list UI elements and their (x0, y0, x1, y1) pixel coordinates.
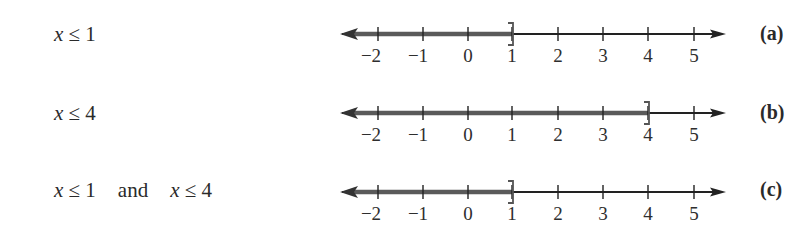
variable-x: x (170, 178, 179, 202)
svg-text:4: 4 (643, 124, 653, 145)
number-line-c: −2−1 01 23 45 (330, 158, 730, 228)
label-a: (a) (760, 22, 783, 45)
svg-text:4: 4 (643, 45, 653, 66)
svg-text:3: 3 (598, 203, 608, 224)
svg-text:2: 2 (553, 203, 563, 224)
conjunction: and (118, 178, 148, 202)
svg-text:−2: −2 (361, 124, 381, 145)
svg-text:3: 3 (598, 124, 608, 145)
svg-text:0: 0 (463, 124, 473, 145)
variable-x: x (54, 22, 63, 46)
svg-text:5: 5 (689, 124, 699, 145)
svg-text:−1: −1 (408, 45, 428, 66)
tick-labels: −2−1 01 23 45 (361, 124, 699, 145)
variable-x: x (54, 101, 63, 125)
relation: ≤ 4 (180, 178, 213, 202)
row-b: x ≤ 4 −2−1 01 23 45 (b) (0, 79, 805, 149)
svg-text:0: 0 (463, 203, 473, 224)
inequality-c: x ≤ 1andx ≤ 4 (54, 178, 212, 203)
row-c: x ≤ 1andx ≤ 4 −2−1 01 23 45 (c) (0, 158, 805, 228)
svg-text:−1: −1 (408, 124, 428, 145)
svg-text:−2: −2 (361, 45, 381, 66)
svg-text:1: 1 (507, 45, 517, 66)
relation: ≤ 4 (63, 101, 96, 125)
svg-text:2: 2 (553, 124, 563, 145)
inequality-a: x ≤ 1 (54, 22, 96, 47)
svg-text:5: 5 (689, 203, 699, 224)
number-line-a: −2−1 01 23 45 (330, 0, 730, 70)
row-a: x ≤ 1 −2−1 01 23 45 (a) (0, 0, 805, 70)
svg-text:1: 1 (507, 124, 517, 145)
label-c: (c) (760, 178, 782, 201)
relation: ≤ 1 (63, 22, 96, 46)
svg-text:1: 1 (507, 203, 517, 224)
svg-text:2: 2 (553, 45, 563, 66)
svg-text:5: 5 (689, 45, 699, 66)
label-b: (b) (760, 101, 784, 124)
number-line-b: −2−1 01 23 45 (330, 79, 730, 149)
svg-text:0: 0 (463, 45, 473, 66)
inequality-b: x ≤ 4 (54, 101, 96, 126)
svg-text:−2: −2 (361, 203, 381, 224)
tick-labels: −2−1 01 23 45 (361, 203, 699, 224)
relation: ≤ 1 (63, 178, 96, 202)
tick-labels: −2−1 01 23 45 (361, 45, 699, 66)
variable-x: x (54, 178, 63, 202)
svg-text:−1: −1 (408, 203, 428, 224)
svg-text:3: 3 (598, 45, 608, 66)
svg-text:4: 4 (643, 203, 653, 224)
